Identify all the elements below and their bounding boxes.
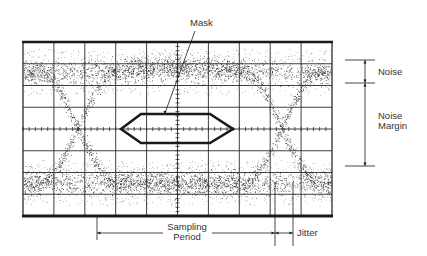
- mask-label: Mask: [190, 18, 213, 28]
- noise-margin-label: Noise Margin: [378, 111, 407, 131]
- sampling-period-label-line2: Period: [165, 232, 209, 242]
- noise-label: Noise: [378, 67, 402, 77]
- eye-mask-hexagon: [121, 114, 233, 143]
- sampling-period-label: Sampling Period: [165, 222, 209, 242]
- noise-margin-label-line2: Margin: [378, 121, 407, 131]
- dimension-annotations: [22, 31, 375, 246]
- jitter-label: Jitter: [297, 228, 318, 238]
- eye-diagram: [0, 0, 427, 256]
